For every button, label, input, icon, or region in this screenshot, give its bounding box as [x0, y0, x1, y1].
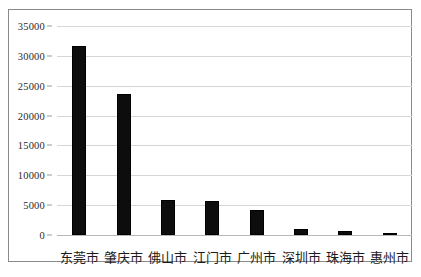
y-tick-mark	[47, 175, 52, 176]
x-tick-label: 江门市	[193, 247, 232, 266]
x-tick-label: 广州市	[237, 247, 276, 266]
y-tick-mark	[47, 26, 52, 27]
y-tick-label: 0	[40, 230, 45, 241]
bar-chart-figure: 05000100001500020000250003000035000 东莞市肇…	[8, 9, 412, 262]
y-tick-mark	[47, 235, 52, 236]
y-tick-label: 10000	[18, 170, 45, 181]
bar	[205, 201, 219, 235]
gridline	[57, 56, 412, 57]
gridline	[57, 86, 412, 87]
plot-area	[57, 26, 412, 235]
gridline	[57, 116, 412, 117]
x-tick-label: 惠州市	[370, 247, 409, 266]
x-axis: 东莞市肇庆市佛山市江门市广州市深圳市珠海市惠州市	[57, 244, 412, 270]
y-tick-label: 15000	[18, 140, 45, 151]
y-tick-mark	[47, 205, 52, 206]
gridline	[57, 26, 412, 27]
bar	[250, 210, 264, 235]
x-tick-label: 肇庆市	[104, 247, 143, 266]
y-tick-label: 35000	[18, 21, 45, 32]
axis-baseline	[57, 235, 412, 236]
bar	[72, 46, 86, 235]
bar	[294, 229, 308, 235]
y-tick-mark	[47, 85, 52, 86]
y-tick-label: 25000	[18, 80, 45, 91]
x-tick-label: 东莞市	[60, 247, 99, 266]
x-tick-label: 珠海市	[326, 247, 365, 266]
bar	[383, 233, 397, 235]
bar	[161, 200, 175, 235]
y-tick-mark	[47, 145, 52, 146]
y-tick-label: 20000	[18, 110, 45, 121]
gridline	[57, 205, 412, 206]
y-axis: 05000100001500020000250003000035000	[9, 26, 53, 235]
y-tick-mark	[47, 115, 52, 116]
y-tick-label: 30000	[18, 50, 45, 61]
y-tick-label: 5000	[23, 200, 45, 211]
x-tick-label: 佛山市	[148, 247, 187, 266]
y-tick-mark	[47, 55, 52, 56]
x-tick-label: 深圳市	[282, 247, 321, 266]
gridline	[57, 145, 412, 146]
bar	[338, 231, 352, 235]
gridline	[57, 175, 412, 176]
bar	[117, 94, 131, 235]
